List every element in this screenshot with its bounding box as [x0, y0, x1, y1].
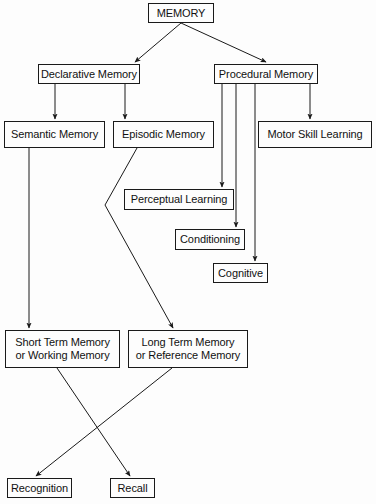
- node-conditioning[interactable]: Conditioning: [175, 229, 245, 250]
- node-motor[interactable]: Motor Skill Learning: [258, 121, 372, 148]
- edge-short-term-to-recall: [57, 368, 130, 476]
- node-procedural[interactable]: Procedural Memory: [214, 64, 318, 84]
- edge-memory-to-procedural: [181, 23, 266, 62]
- edge-episodic-to-long-term: [105, 148, 173, 328]
- edge-long-term-to-recognition: [36, 368, 172, 476]
- edge-group: [29, 23, 310, 476]
- node-declarative[interactable]: Declarative Memory: [38, 64, 140, 84]
- node-long_term[interactable]: Long Term Memory or Reference Memory: [128, 330, 248, 368]
- node-semantic[interactable]: Semantic Memory: [4, 121, 105, 148]
- node-memory[interactable]: MEMORY: [148, 3, 214, 23]
- node-perceptual[interactable]: Perceptual Learning: [124, 189, 234, 210]
- memory-diagram: MEMORYDeclarative MemoryProcedural Memor…: [0, 0, 376, 504]
- node-recall[interactable]: Recall: [110, 478, 155, 498]
- node-short_term[interactable]: Short Term Memory or Working Memory: [5, 330, 120, 368]
- edge-memory-to-declarative: [135, 23, 181, 62]
- node-episodic[interactable]: Episodic Memory: [113, 121, 214, 148]
- node-cognitive[interactable]: Cognitive: [213, 263, 268, 283]
- node-recognition[interactable]: Recognition: [7, 478, 72, 498]
